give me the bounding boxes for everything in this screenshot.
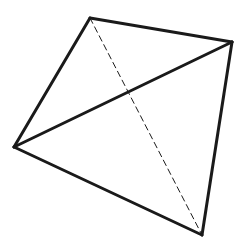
tetrahedron-diagram	[0, 0, 248, 246]
solid-edges	[14, 18, 232, 235]
edge-right-bottom	[202, 42, 232, 235]
hidden-edge-top-bottom	[90, 18, 202, 235]
edge-top-right	[90, 18, 232, 42]
hidden-edges	[90, 18, 202, 235]
edge-left-right	[14, 42, 232, 147]
edge-left-bottom	[14, 147, 202, 235]
